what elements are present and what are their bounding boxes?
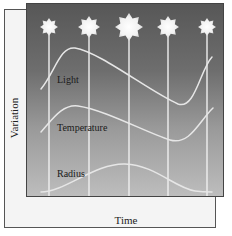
radius-label: Radius — [57, 168, 85, 179]
star-icon — [40, 18, 58, 36]
x-axis-label: Time — [115, 214, 138, 226]
star-icon — [157, 16, 179, 38]
star-icon — [115, 13, 143, 41]
temperature-label: Temperature — [57, 122, 107, 133]
star-icon — [78, 16, 100, 38]
y-axis-label: Variation — [8, 98, 20, 138]
star-icons — [40, 13, 216, 41]
light-label: Light — [57, 74, 79, 85]
star-icon — [198, 18, 216, 36]
plot-area — [0, 0, 232, 236]
